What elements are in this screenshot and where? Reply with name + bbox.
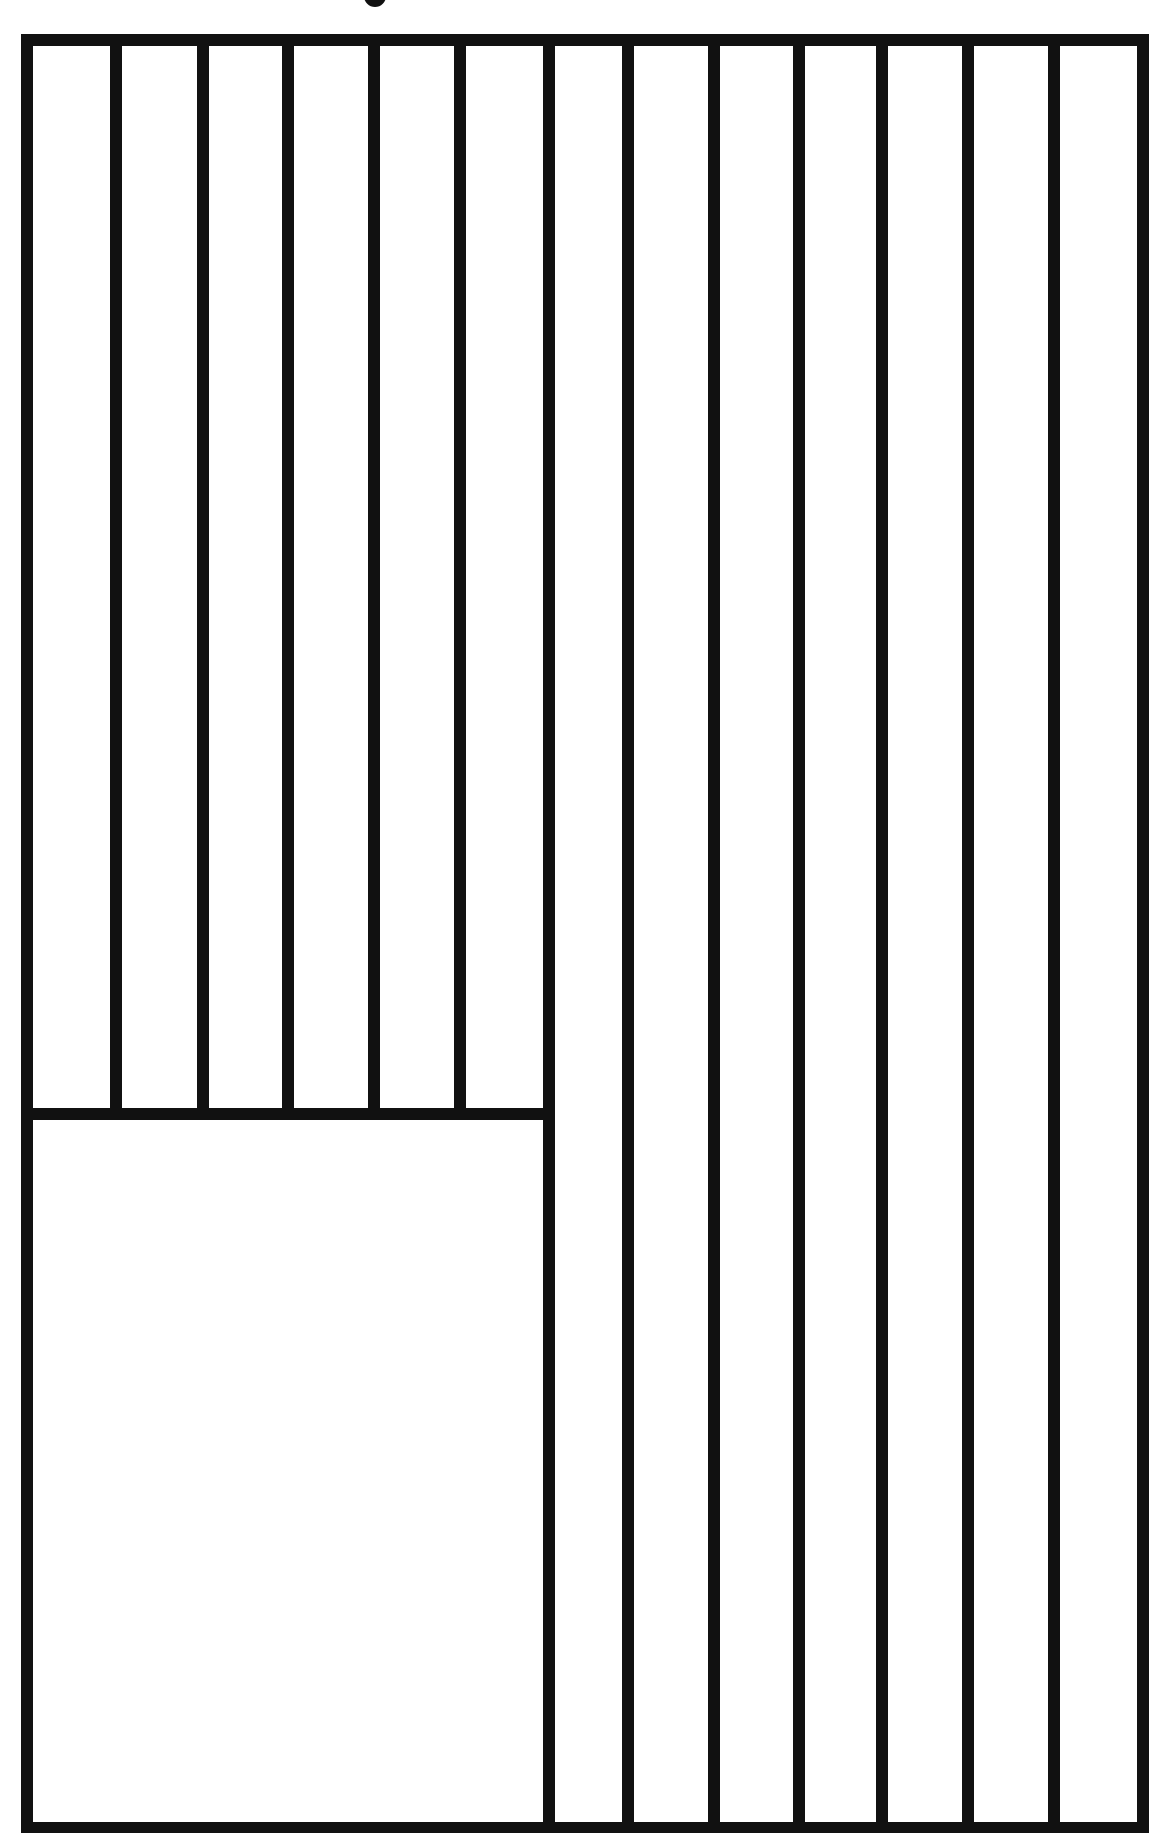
panel-diagram [0,0,1170,1833]
outer-frame [27,40,1143,1828]
